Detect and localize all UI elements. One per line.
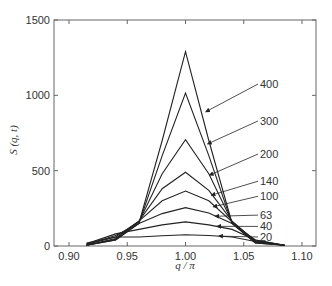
x-tick-label: 1.05 [233,250,254,262]
series-label-20: 20 [260,231,272,243]
y-tick-label: 1000 [26,89,50,101]
structure-factor-chart: 0.900.951.001.051.10050010001500 4003002… [0,0,332,286]
y-axis-title: S (q, t) [7,125,20,155]
series-label-140: 140 [260,175,278,187]
series-label-200: 200 [260,148,278,160]
label-arrow [206,84,258,112]
x-tick-label: 1.10 [291,250,312,262]
series-label-100: 100 [260,190,278,202]
series-label-400: 400 [260,78,278,90]
y-tick-label: 500 [32,165,50,177]
axis-ticks: 0.900.951.001.051.10050010001500 [26,14,316,262]
series-label-63: 63 [260,209,272,221]
x-tick-label: 0.95 [117,250,138,262]
series-labels: 400300200140100634020 [206,78,279,243]
y-tick-label: 0 [44,240,50,252]
y-tick-label: 1500 [26,14,50,26]
label-arrow [210,154,258,175]
label-arrow [208,121,258,144]
x-axis-title: q / π [175,259,195,271]
label-arrow [215,215,258,216]
curve-t-400 [87,52,285,246]
series-label-300: 300 [260,115,278,127]
data-curves [87,52,285,246]
x-tick-label: 0.90 [58,250,79,262]
